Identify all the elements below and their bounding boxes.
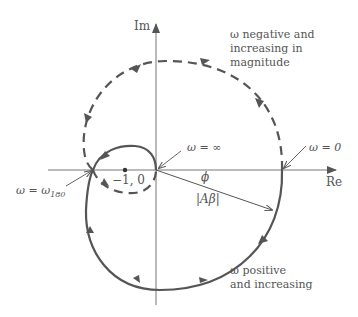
negative-frequency-label-3: magnitude	[230, 56, 290, 69]
axes	[48, 24, 336, 305]
omega-zero-label: ω = 0	[309, 141, 341, 154]
positive-frequency-label-2: and increasing	[230, 278, 313, 291]
critical-point-label: −1, 0	[112, 173, 145, 187]
negative-frequency-label-2: increasing in	[230, 42, 302, 55]
omega-180-label: ω = ω180	[16, 184, 65, 199]
re-axis-label: Re	[326, 175, 342, 189]
arrowhead-icon	[200, 58, 210, 65]
negative-frequency-label-1: ω negative and	[230, 28, 315, 41]
critical-point-dot	[123, 168, 127, 172]
omega-180-leader	[66, 171, 91, 186]
omega-infinity-leader	[159, 151, 181, 168]
arrowhead-icon	[255, 98, 264, 108]
arrowhead-icon	[84, 113, 92, 123]
positive-frequency-label-1: ω positive	[230, 264, 286, 277]
phase-label: ϕ	[201, 170, 209, 184]
arrowhead-icon	[133, 275, 140, 283]
omega-180-prefix: ω = ω	[16, 184, 50, 197]
nyquist-diagram: Im Re ω negative and increasing in magni…	[0, 0, 358, 317]
omega-infinity-label: ω = ∞	[187, 141, 221, 154]
im-axis-label: Im	[134, 19, 151, 33]
magnitude-label: |Aβ|	[196, 192, 220, 206]
omega-zero-leader	[284, 146, 306, 168]
omega-180-subscript: 180	[50, 190, 65, 199]
